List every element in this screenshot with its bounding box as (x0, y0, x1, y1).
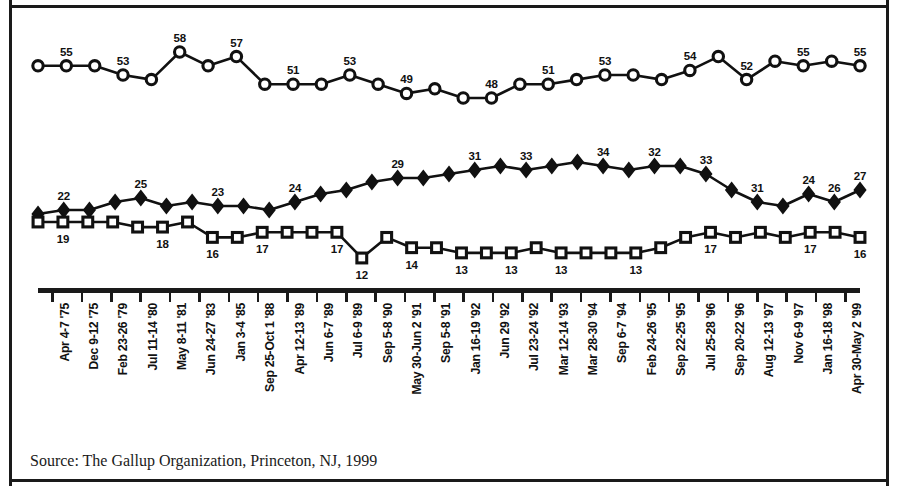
x-axis-label: May 30-Jun 2 '91 (410, 303, 424, 395)
data-point-label: 57 (230, 37, 242, 49)
data-point-square (506, 248, 516, 258)
x-axis-tick (81, 293, 84, 302)
x-axis-tick (492, 293, 495, 302)
data-point-square (183, 217, 193, 227)
data-point-circle (571, 74, 581, 84)
data-point-circle (656, 74, 666, 84)
data-point-label: 31 (751, 182, 764, 194)
data-point-circle (543, 79, 553, 89)
data-point-square (581, 248, 591, 258)
data-point-square (830, 227, 840, 237)
data-point-circle (175, 47, 185, 57)
x-axis-label: Aug 12-13 '97 (762, 303, 776, 377)
data-point-label: 13 (555, 264, 567, 276)
data-point-square (307, 227, 317, 237)
data-point-diamond (495, 159, 506, 173)
data-point-label: 16 (206, 248, 218, 260)
x-axis-tick (785, 293, 788, 302)
data-point-diamond (469, 163, 480, 177)
x-axis-tick (433, 293, 436, 302)
data-point-diamond (777, 199, 788, 213)
data-point-diamond (598, 159, 609, 173)
data-point-label: 13 (455, 264, 467, 276)
data-point-diamond (854, 183, 865, 197)
x-axis-tick (316, 293, 319, 302)
data-point-label: 53 (344, 55, 356, 67)
x-axis-tick (286, 293, 289, 302)
data-point-circle (401, 88, 411, 98)
x-axis-tick (462, 293, 465, 302)
data-point-circle (260, 79, 270, 89)
x-axis-label: Feb 24-26 '95 (645, 303, 659, 375)
data-point-label: 33 (700, 154, 712, 166)
x-axis-tick (404, 293, 407, 302)
data-point-square (382, 233, 392, 243)
data-point-circle (827, 56, 837, 66)
data-point-diamond (392, 171, 403, 185)
x-axis-tick (639, 293, 642, 302)
data-point-diamond (443, 167, 454, 181)
x-axis-tick (550, 293, 553, 302)
data-point-circle (90, 61, 100, 71)
data-point-square (208, 233, 218, 243)
data-point-square (257, 227, 267, 237)
data-point-circle (770, 56, 780, 66)
data-point-label: 34 (597, 146, 610, 158)
data-point-diamond (675, 159, 686, 173)
x-axis-label: Mar 28-30 '94 (586, 303, 600, 375)
data-point-label: 14 (405, 259, 418, 271)
x-axis-tick (609, 293, 612, 302)
data-point-diamond (752, 195, 763, 209)
data-point-label: 55 (797, 46, 810, 58)
data-point-label: 32 (648, 146, 660, 158)
x-axis-tick (374, 293, 377, 302)
x-axis-tick (668, 293, 671, 302)
data-point-circle (486, 93, 496, 103)
data-point-label: 17 (804, 243, 816, 255)
x-axis-label: Sep 5-8 '90 (381, 303, 395, 363)
data-point-square (457, 248, 467, 258)
x-axis-label: Feb 23-26 '79 (116, 303, 130, 375)
data-point-diamond (58, 203, 69, 217)
x-axis-label: Sep 6-7 '94 (615, 303, 629, 363)
line-chart-svg: 5553585751534948515354525555222523242931… (18, 10, 878, 310)
x-axis-label: Jun 29 '92 (498, 303, 512, 358)
data-point-square (108, 217, 118, 227)
data-point-label: 17 (704, 243, 716, 255)
series-bottom-series: 1918161717121413131313171716 (33, 217, 866, 281)
data-point-circle (798, 61, 808, 71)
x-axis-label: Mar 12-14 '93 (557, 303, 571, 375)
data-point-diamond (238, 199, 249, 213)
x-axis-tick (169, 293, 172, 302)
data-point-label: 26 (828, 182, 840, 194)
x-axis-label: Sep 20-22 '96 (733, 303, 747, 376)
x-axis-tick (844, 293, 847, 302)
data-point-diamond (726, 183, 737, 197)
x-axis-label: Jul 25-28 '96 (704, 303, 718, 371)
x-axis-label: May 8-11 '81 (175, 303, 189, 370)
x-axis-label: Apr 30-May 2 '99 (850, 303, 864, 394)
x-axis-label: Dec 9-12 '75 (87, 303, 101, 369)
x-axis-label: Jul 6-9 '89 (351, 303, 365, 358)
data-point-label: 55 (60, 46, 73, 58)
data-point-label: 51 (287, 64, 300, 76)
data-point-square (58, 217, 68, 227)
data-point-square (731, 233, 741, 243)
data-point-diamond (418, 171, 429, 185)
data-point-label: 17 (256, 243, 268, 255)
data-point-circle (373, 79, 383, 89)
data-point-label: 12 (356, 269, 368, 281)
data-point-circle (600, 70, 610, 80)
data-point-square (531, 243, 541, 253)
data-point-circle (231, 51, 241, 61)
data-point-square (432, 243, 442, 253)
data-point-square (158, 222, 168, 232)
data-point-diamond (700, 167, 711, 181)
data-point-label: 53 (599, 55, 611, 67)
x-axis-tick (727, 293, 730, 302)
data-point-circle (146, 74, 156, 84)
x-axis-tick (198, 293, 201, 302)
page-rule-right (886, 0, 889, 486)
data-point-diamond (623, 163, 634, 177)
x-axis-tick (756, 293, 759, 302)
